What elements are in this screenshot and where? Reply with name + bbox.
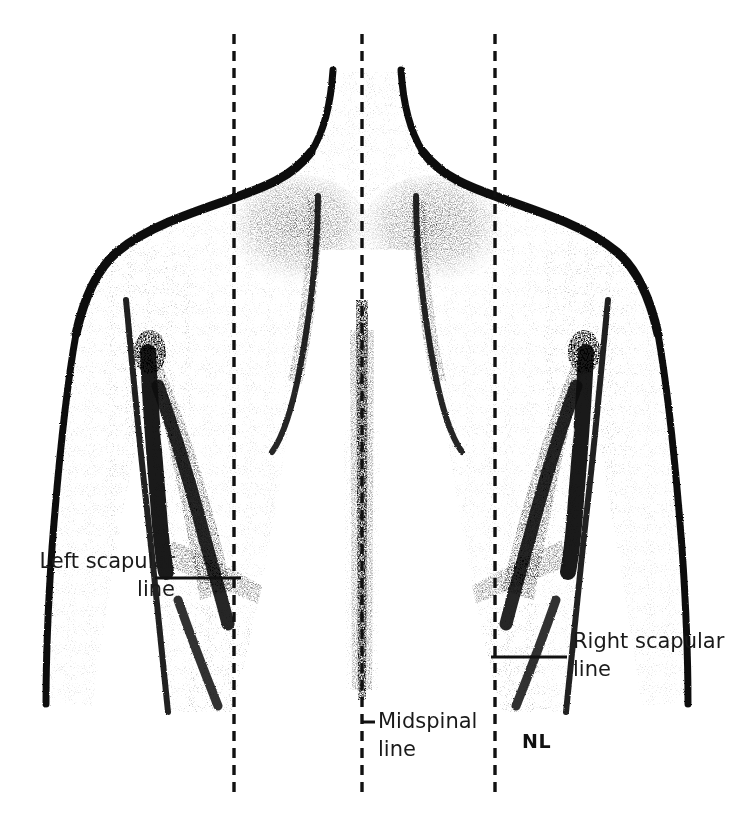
anatomy-figure: Left scapular line Midspinal line Right … bbox=[0, 0, 734, 820]
label-midspinal-line: Midspinal line bbox=[362, 709, 477, 761]
back-anatomy-illustration: Left scapular line Midspinal line Right … bbox=[0, 0, 734, 820]
left-scapular-label-line2: line bbox=[137, 577, 175, 601]
midspinal-label-line2: line bbox=[378, 737, 416, 761]
labels-group: Left scapular line Midspinal line Right … bbox=[39, 549, 724, 761]
torso-group bbox=[40, 60, 700, 720]
nl-annotation-label: NL bbox=[522, 730, 551, 752]
right-scapular-label-line1: Right scapular bbox=[573, 629, 725, 653]
left-scapular-label-line1: Left scapular bbox=[39, 549, 175, 573]
right-scapular-label-line2: line bbox=[573, 657, 611, 681]
shoulder-shading bbox=[220, 160, 520, 300]
midspinal-label-line1: Midspinal bbox=[378, 709, 477, 733]
